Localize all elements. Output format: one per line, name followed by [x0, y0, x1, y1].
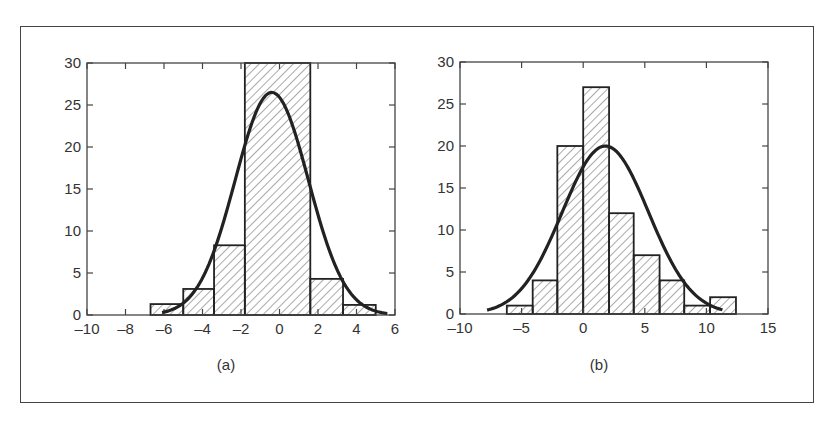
x-tick-label: 6 [391, 320, 399, 337]
histogram-bar [660, 280, 685, 314]
y-tick-label: 30 [437, 53, 454, 70]
x-tick-label: 0 [579, 319, 587, 336]
y-tick-label: 25 [64, 96, 81, 113]
y-tick-label: 20 [64, 138, 81, 155]
histogram-bar [214, 245, 245, 315]
panel-caption: (a) [217, 356, 235, 373]
x-tick-label: –4 [194, 320, 211, 337]
y-tick-label: 0 [446, 305, 454, 322]
y-tick-label: 5 [73, 264, 81, 281]
histogram-panel-a: –10–8–6–4–20246051015202530(a) [64, 54, 399, 373]
y-tick-label: 5 [446, 263, 454, 280]
histogram-bar [183, 289, 214, 315]
x-tick-label: 15 [760, 319, 777, 336]
y-tick-label: 10 [437, 221, 454, 238]
y-tick-label: 30 [64, 54, 81, 71]
x-tick-label: –5 [513, 319, 530, 336]
x-tick-label: –6 [156, 320, 173, 337]
histogram-bar [533, 280, 558, 314]
y-tick-label: 0 [73, 306, 81, 323]
x-tick-label: 5 [641, 319, 649, 336]
y-tick-label: 10 [64, 222, 81, 239]
y-tick-label: 25 [437, 95, 454, 112]
y-tick-label: 15 [64, 180, 81, 197]
histogram-bar [634, 255, 660, 314]
histogram-bar [245, 63, 310, 315]
histogram-bar [507, 306, 533, 314]
x-tick-label: 0 [275, 320, 283, 337]
figure-canvas: –10–8–6–4–20246051015202530(a) –10–50510… [0, 0, 838, 427]
x-tick-label: 10 [698, 319, 715, 336]
y-tick-label: 15 [437, 179, 454, 196]
histogram-bar [310, 279, 343, 315]
panel-caption: (b) [590, 356, 608, 373]
x-tick-label: 2 [314, 320, 322, 337]
x-tick-label: –2 [233, 320, 250, 337]
histogram-bar [583, 87, 609, 314]
histogram-bar [609, 213, 634, 314]
y-tick-label: 20 [437, 137, 454, 154]
histogram-panel-b: –10–5051015051015202530(b) [437, 53, 776, 373]
x-tick-label: 4 [352, 320, 360, 337]
x-tick-label: –8 [117, 320, 134, 337]
